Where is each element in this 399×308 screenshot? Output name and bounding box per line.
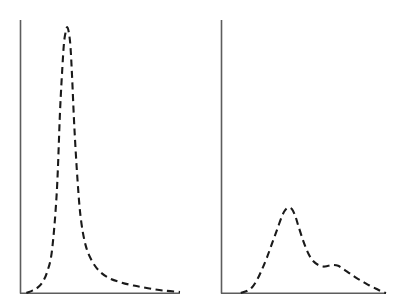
right-panel [221,20,386,294]
right-panel-distribution-curve [241,208,386,293]
distribution-figure-svg [0,0,399,308]
figure-container [0,0,399,308]
left-panel-distribution-curve [26,27,180,293]
left-panel [20,20,180,294]
